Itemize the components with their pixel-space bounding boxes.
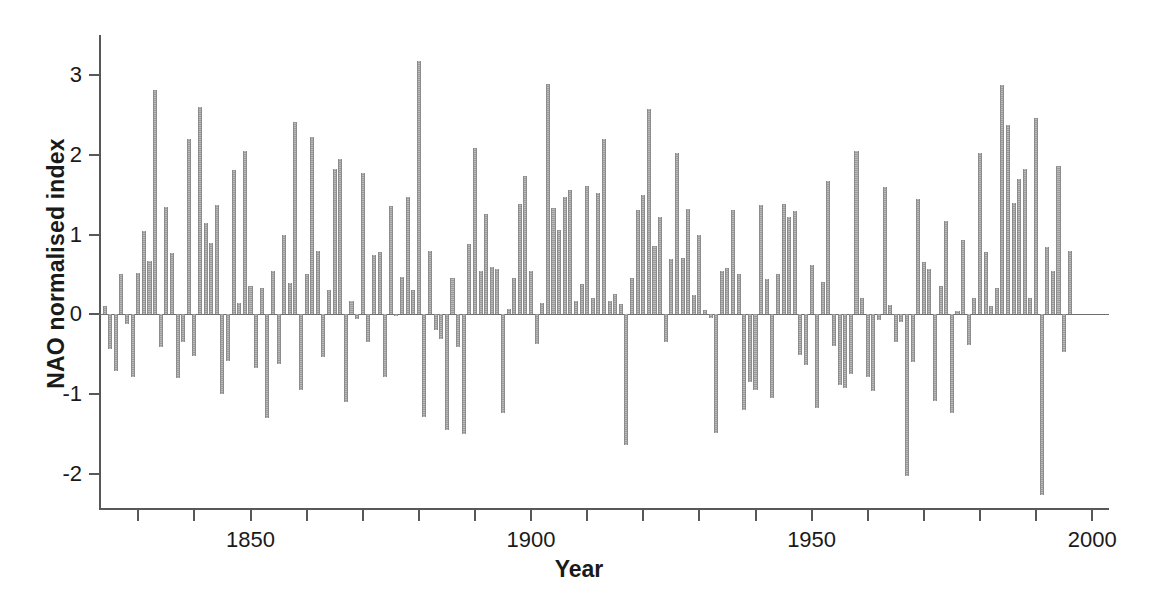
bar: [518, 204, 522, 314]
y-tick-label: -1: [62, 381, 82, 407]
x-tick-mark: [474, 510, 476, 521]
x-axis-title: Year: [0, 556, 1158, 583]
bar: [989, 306, 993, 314]
bar: [585, 186, 589, 315]
bar: [849, 314, 853, 374]
bar: [338, 159, 342, 315]
x-tick-mark: [306, 510, 308, 521]
bar: [1028, 298, 1032, 315]
bar: [540, 303, 544, 314]
bar: [686, 209, 690, 314]
bar: [288, 283, 292, 314]
bar: [321, 314, 325, 356]
y-tick-label: 1: [70, 222, 82, 248]
bar: [658, 217, 662, 314]
bar: [1045, 247, 1049, 314]
bar: [176, 314, 180, 378]
bar: [961, 240, 965, 314]
bar: [1006, 125, 1010, 314]
bar: [361, 173, 365, 314]
bar: [894, 314, 898, 342]
bar: [860, 298, 864, 314]
bar: [636, 210, 640, 315]
bar: [647, 109, 651, 314]
x-tick-mark: [362, 510, 364, 521]
bar: [664, 314, 668, 342]
bar: [697, 235, 701, 315]
bar: [596, 193, 600, 314]
x-tick-mark: [530, 510, 532, 521]
bar: [187, 139, 191, 315]
bar: [669, 259, 673, 315]
x-tick-label: 1950: [787, 527, 836, 553]
bar: [237, 303, 241, 314]
bar: [877, 314, 881, 320]
bar: [490, 267, 494, 314]
bar: [703, 310, 707, 314]
bar: [366, 314, 370, 341]
bar: [624, 314, 628, 444]
bar: [899, 314, 903, 322]
bar: [467, 244, 471, 314]
bar: [378, 252, 382, 314]
bar: [1034, 118, 1038, 314]
bar: [765, 279, 769, 314]
bar: [248, 286, 252, 315]
x-tick-mark: [867, 510, 869, 521]
bar: [394, 314, 398, 316]
bar: [226, 314, 230, 360]
bar: [293, 122, 297, 314]
x-tick-mark: [586, 510, 588, 521]
bar: [181, 314, 185, 342]
bar: [793, 211, 797, 315]
bar: [192, 314, 196, 356]
x-tick-mark: [1035, 510, 1037, 521]
bar: [349, 301, 353, 315]
bar: [720, 271, 724, 314]
bar: [838, 314, 842, 384]
bar: [591, 298, 595, 314]
bar: [709, 314, 713, 318]
bar: [204, 223, 208, 314]
bar: [136, 273, 140, 315]
bar: [1000, 85, 1004, 314]
x-tick-mark: [755, 510, 757, 521]
bar: [995, 288, 999, 314]
bar: [725, 268, 729, 314]
bar: [372, 255, 376, 315]
bar: [389, 206, 393, 315]
bar: [776, 274, 780, 314]
bar: [905, 314, 909, 476]
x-tick-label: 2000: [1068, 527, 1117, 553]
bar: [832, 314, 836, 345]
bar: [641, 195, 645, 315]
bar: [1068, 251, 1072, 315]
bar: [787, 217, 791, 314]
bar: [277, 314, 281, 363]
bar: [333, 169, 337, 314]
bar: [574, 301, 578, 315]
bar: [821, 282, 825, 315]
bar: [748, 314, 752, 382]
x-tick-label: 1850: [226, 527, 275, 553]
bar: [254, 314, 258, 367]
bar: [383, 314, 387, 376]
bar: [220, 314, 224, 394]
bar: [114, 314, 118, 371]
bar: [619, 304, 623, 314]
bar: [523, 176, 527, 315]
bar: [742, 314, 746, 410]
y-tick-label: 3: [70, 62, 82, 88]
bar: [888, 305, 892, 315]
bar: [1040, 314, 1044, 494]
bar: [602, 139, 606, 315]
bar: [1012, 203, 1016, 315]
bar: [866, 314, 870, 376]
bar: [417, 61, 421, 314]
bar: [1051, 271, 1055, 315]
bar: [159, 314, 163, 347]
bar: [411, 290, 415, 314]
bar: [563, 197, 567, 314]
bar: [310, 137, 314, 314]
bar: [916, 199, 920, 315]
